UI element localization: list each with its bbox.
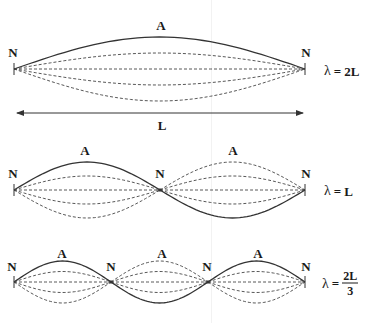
wave-solid <box>111 282 208 303</box>
node-point <box>159 189 162 192</box>
lambda-symbol: λ <box>324 184 331 198</box>
wave-solid <box>208 261 305 282</box>
antinode-label: A <box>57 247 66 260</box>
wave-solid <box>160 190 305 218</box>
lambda-symbol: λ <box>324 64 331 78</box>
antinode-label: A <box>253 247 262 260</box>
antinode-label: A <box>157 247 166 260</box>
wavelength-label-second: λ = L <box>324 184 353 198</box>
fraction-numerator: 2L <box>342 270 358 284</box>
wave-solid <box>14 261 111 282</box>
node-point <box>207 281 210 284</box>
wave-dashed <box>14 69 305 85</box>
node-label: N <box>7 260 16 273</box>
node-label: N <box>8 167 17 180</box>
node-label: N <box>8 46 17 59</box>
node-label: N <box>106 260 115 273</box>
wave-dashed <box>14 282 111 293</box>
wavelength-value: L <box>344 185 353 198</box>
wave-dashed <box>160 162 305 190</box>
wavelength-fraction: 2L 3 <box>342 270 358 297</box>
wavelength-label-third: λ = 2L 3 <box>322 270 358 297</box>
wave-dashed <box>14 190 160 204</box>
antinode-label: A <box>156 19 165 32</box>
node-label: N <box>155 167 164 180</box>
wave-dashed <box>111 272 208 283</box>
equals-sign: = <box>334 65 341 78</box>
node-label: N <box>202 260 211 273</box>
wave-dashed <box>14 53 305 69</box>
node-label: N <box>301 260 310 273</box>
node-label: N <box>301 46 310 59</box>
wave-dashed <box>160 190 305 204</box>
antinode-label: A <box>80 144 89 157</box>
wave-solid <box>14 162 160 190</box>
node-point <box>110 281 113 284</box>
wavelength-label-fundamental: λ = 2L <box>324 64 359 78</box>
wave-dashed <box>208 282 305 303</box>
lambda-symbol: λ <box>322 276 329 290</box>
length-label: L <box>158 119 167 132</box>
standing-waves-diagram <box>0 0 370 323</box>
equals-sign: = <box>332 277 339 290</box>
node-label: N <box>301 167 310 180</box>
wave-dashed <box>111 261 208 282</box>
equals-sign: = <box>334 185 341 198</box>
wave-dashed <box>14 190 160 218</box>
wave-dashed <box>14 176 160 190</box>
wave-dashed <box>14 282 111 303</box>
fraction-denominator: 3 <box>347 284 353 297</box>
antinode-label: A <box>228 144 237 157</box>
wavelength-value: 2L <box>344 65 359 78</box>
wave-dashed <box>208 282 305 293</box>
wave-dashed <box>160 176 305 190</box>
